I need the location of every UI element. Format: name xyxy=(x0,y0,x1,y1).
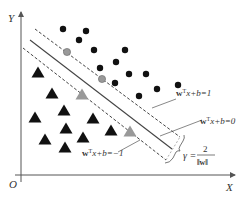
negative-point xyxy=(105,125,118,136)
positive-point xyxy=(122,47,128,53)
positive-point xyxy=(154,86,160,92)
hyperplane-label: wTx+b=0 xyxy=(200,116,236,126)
positive-point xyxy=(97,65,103,71)
positive-point xyxy=(175,82,181,88)
y-axis-label: Y xyxy=(8,12,16,24)
upper-margin-line xyxy=(35,29,180,137)
negative-point xyxy=(77,132,90,143)
positive-point xyxy=(143,71,149,77)
positive-support-vector xyxy=(63,48,70,55)
margin-cap xyxy=(166,137,180,160)
data-points xyxy=(29,26,182,153)
margin-gamma: γ = xyxy=(183,150,196,161)
margin-numerator: 2 xyxy=(203,144,208,154)
leader-hyper xyxy=(160,120,202,136)
negative-support-vector xyxy=(124,126,137,137)
positive-point xyxy=(76,37,82,43)
positive-point xyxy=(136,93,142,99)
negative-point xyxy=(39,134,52,145)
positive-point xyxy=(60,26,66,32)
positive-point xyxy=(112,80,118,86)
negative-point xyxy=(60,123,73,134)
positive-point xyxy=(91,47,97,53)
positive-point xyxy=(83,28,89,34)
lower-margin-label: wTx+b=−1 xyxy=(82,148,123,158)
negative-point xyxy=(46,88,59,99)
negative-point xyxy=(59,142,72,153)
leader-upper xyxy=(152,99,176,108)
origin-label: O xyxy=(9,178,17,190)
svm-diagram: Y X O wTx+b=1 wTx+b=0 wTx+b=−1 γ = 2 ‖w‖ xyxy=(0,0,246,199)
positive-support-vector xyxy=(98,75,105,82)
negative-point xyxy=(29,112,42,123)
negative-point xyxy=(32,67,45,78)
negative-point xyxy=(58,105,71,116)
margin-brace xyxy=(165,135,184,163)
upper-margin-label: wTx+b=1 xyxy=(176,88,211,98)
negative-support-vector xyxy=(76,89,89,100)
margin-denominator: ‖w‖ xyxy=(197,158,208,167)
negative-point xyxy=(87,113,100,124)
positive-point xyxy=(113,59,119,65)
positive-point xyxy=(126,71,132,77)
x-axis-label: X xyxy=(225,181,234,193)
